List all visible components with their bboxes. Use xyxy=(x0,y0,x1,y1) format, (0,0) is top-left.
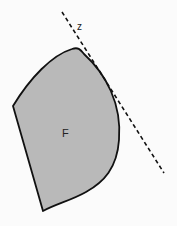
diagram-canvas: z F xyxy=(0,0,177,226)
region-label-F: F xyxy=(62,127,69,139)
line-label-z: z xyxy=(77,21,82,32)
